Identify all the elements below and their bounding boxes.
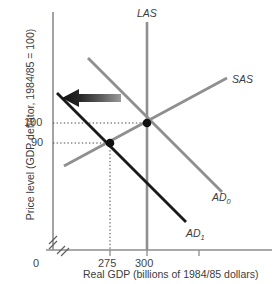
as-ad-chart-figure: 100 90 275 300 0 LAS SAS AD0 AD1 Price l… — [0, 0, 277, 284]
sas-curve-label: SAS — [232, 74, 253, 85]
ad1-label-subscript: 1 — [201, 233, 205, 242]
ad1-curve-label: AD1 — [186, 228, 205, 242]
initial-equilibrium-point — [143, 119, 152, 128]
y-axis-title: Price level (GDP deflator, 1984/85 = 100… — [25, 50, 36, 220]
las-curve-label: LAS — [137, 8, 157, 19]
origin-label: 0 — [33, 258, 39, 269]
x-axis-title: Real GDP (billions of 1984/85 dollars) — [83, 269, 258, 280]
ad0-label-subscript: 0 — [227, 197, 231, 206]
ad0-label-text: AD — [212, 191, 227, 203]
leftward-shift-arrow — [62, 89, 121, 107]
axis-break-mark — [49, 236, 69, 256]
ad0-curve — [88, 58, 222, 192]
ad0-curve-label: AD0 — [212, 192, 231, 206]
ad1-curve — [57, 93, 186, 222]
new-equilibrium-point — [106, 139, 115, 148]
ad1-label-text: AD — [186, 227, 201, 239]
